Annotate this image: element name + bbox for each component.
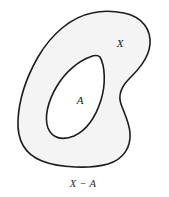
figure-container: X A X − A — [0, 0, 169, 197]
outer-region-label: X — [116, 37, 125, 49]
figure-caption: X − A — [69, 178, 97, 189]
inner-region-label: A — [76, 94, 84, 106]
set-difference-diagram: X A X − A — [0, 0, 169, 197]
